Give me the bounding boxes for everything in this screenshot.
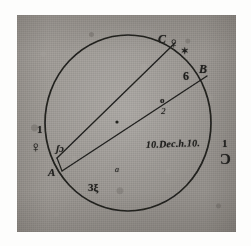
- digit-six-label: 6: [183, 70, 189, 82]
- script-note-left: ʃɔ: [56, 144, 64, 154]
- star-mark-icon: ✶: [181, 47, 189, 56]
- marker-two: 2: [161, 107, 166, 116]
- venus-symbol-top-right: ♀: [168, 36, 179, 51]
- point-label-c: C: [158, 33, 166, 45]
- chord-line-ab: [62, 76, 207, 171]
- venus-symbol-left: ♀: [30, 140, 41, 155]
- crescent-symbol-right: Ɔ: [220, 152, 231, 167]
- marker-small-o: o: [160, 96, 165, 105]
- date-annotation: 10.Dec.h.10.: [146, 138, 200, 150]
- digit-one-right: 1: [222, 138, 228, 149]
- point-label-b: B: [199, 63, 207, 75]
- script-note-lower: 3ξ: [88, 182, 98, 193]
- figure-canvas: C ♀ ✶ B 6 o 2 10.Dec.h.10. 1 ♀ A ʃɔ 1 Ɔ …: [0, 0, 251, 246]
- field-of-view-circle: [45, 35, 211, 211]
- tick-dot-mid-chord: [115, 120, 118, 123]
- digit-one-left: 1: [37, 124, 43, 135]
- marker-a-lower: a: [115, 166, 119, 174]
- point-label-a: A: [48, 167, 55, 178]
